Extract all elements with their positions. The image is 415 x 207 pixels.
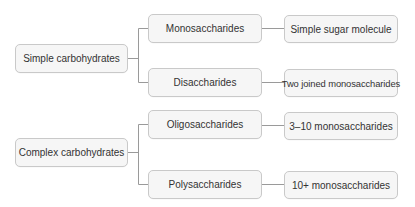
node-complex-carbohydrates: Complex carbohydrates [15, 138, 128, 167]
node-monosaccharides-description: Simple sugar molecule [284, 15, 398, 43]
node-oligosaccharides-description: 3–10 monosaccharides [284, 112, 398, 140]
connector-simple-to-children [128, 29, 148, 83]
node-polysaccharides-description: 10+ monosaccharides [284, 171, 398, 199]
node-polysaccharides: Polysaccharides [148, 170, 262, 199]
carbohydrate-classification-diagram: Simple carbohydrates Monosaccharides Sim… [0, 0, 415, 207]
node-monosaccharides: Monosaccharides [148, 14, 262, 43]
node-disaccharides: Disaccharides [148, 68, 262, 97]
connector-complex-to-children [128, 125, 148, 185]
node-simple-carbohydrates: Simple carbohydrates [15, 44, 128, 73]
node-oligosaccharides: Oligosaccharides [148, 110, 262, 139]
node-disaccharides-description: Two joined monosaccharides [284, 69, 398, 97]
